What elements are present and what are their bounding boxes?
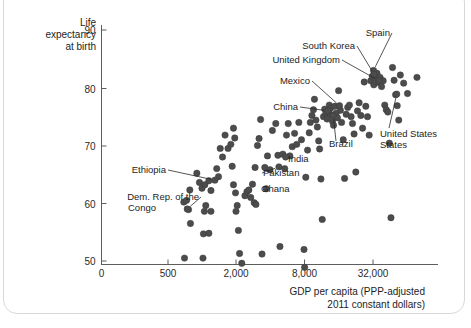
data-point: [217, 145, 223, 151]
data-point: [201, 208, 207, 214]
data-point: [400, 80, 406, 86]
leader-line: [357, 46, 372, 71]
annotation-label: India: [288, 153, 309, 164]
data-point: [273, 120, 279, 126]
y-axis-title-line2: expectancy: [45, 29, 96, 40]
data-point: [259, 251, 265, 257]
data-point: [254, 142, 260, 148]
data-point: [335, 87, 341, 93]
y-axis-title-line3: at birth: [65, 41, 96, 52]
data-point: [358, 112, 364, 118]
y-axis-title: Life expectancy at birth: [45, 17, 96, 52]
annotation-label: China: [273, 101, 299, 112]
data-point: [277, 243, 283, 249]
data-point: [396, 117, 402, 123]
data-point: [388, 214, 394, 220]
data-points-group: [181, 64, 421, 270]
data-point-labeled: [394, 91, 400, 97]
annotation-label: Dem. Rep. of the: [127, 191, 199, 202]
data-point: [359, 125, 365, 131]
data-point: [306, 130, 312, 136]
y-axis-ticks: 9080706050: [84, 25, 106, 267]
data-point: [246, 187, 252, 193]
data-point: [249, 181, 255, 187]
annotation-label: Brazil: [329, 138, 353, 149]
data-point: [414, 74, 420, 80]
data-point: [385, 109, 391, 115]
x-tick-label: 500: [160, 268, 177, 279]
data-point: [256, 135, 262, 141]
data-point: [234, 202, 240, 208]
annotation-label-line2: States: [380, 139, 407, 150]
data-point: [257, 116, 263, 122]
data-point: [239, 260, 245, 266]
data-point: [206, 230, 212, 236]
scatter-plot-figure: 9080706050 05002,0008,00032,000 Life exp…: [0, 0, 471, 328]
annotation-label: Mexico: [280, 75, 310, 86]
data-point: [214, 165, 220, 171]
data-point: [208, 187, 214, 193]
data-point: [318, 176, 324, 182]
data-point: [316, 146, 322, 152]
data-point: [361, 79, 367, 85]
data-point: [219, 154, 225, 160]
leader-line: [375, 33, 392, 67]
data-point: [404, 90, 410, 96]
y-axis-title-line1: Life: [80, 17, 97, 28]
annotation-label: Pakistan: [263, 167, 299, 178]
data-point: [366, 132, 372, 138]
data-point: [291, 130, 297, 136]
data-point: [348, 113, 354, 119]
data-point: [229, 163, 235, 169]
data-point-labeled: [325, 108, 331, 114]
data-point: [364, 113, 370, 119]
annotation-label: Ghana: [261, 183, 290, 194]
data-point: [228, 141, 234, 147]
y-tick-label: 60: [84, 199, 96, 210]
annotation-label: South Korea: [302, 40, 356, 51]
x-tick-label: 0: [99, 268, 105, 279]
data-point: [285, 120, 291, 126]
data-point: [232, 135, 238, 141]
data-point-labeled: [330, 112, 336, 118]
data-point: [301, 264, 307, 270]
x-tick-label: 32,000: [358, 268, 389, 279]
data-point: [353, 169, 359, 175]
data-point: [349, 120, 355, 126]
x-axis-title-line1: GDP per capita (PPP-adjusted: [290, 286, 425, 297]
data-point: [313, 117, 319, 123]
data-point: [351, 131, 357, 137]
data-point-labeled: [376, 78, 382, 84]
data-point: [269, 127, 275, 133]
data-point: [200, 255, 206, 261]
data-point: [235, 227, 241, 233]
data-point: [294, 141, 300, 147]
data-point-labeled: [184, 206, 190, 212]
y-tick-label: 80: [84, 84, 96, 95]
data-point: [389, 64, 395, 70]
data-point: [230, 182, 236, 188]
annotation-label: Spain: [366, 27, 390, 38]
data-point: [378, 83, 384, 89]
data-point: [330, 122, 336, 128]
leader-line: [168, 170, 211, 179]
data-point: [203, 202, 209, 208]
data-point: [316, 138, 322, 144]
annotation-label: United Kingdom: [272, 54, 340, 65]
y-tick-label: 70: [84, 141, 96, 152]
data-point: [222, 132, 228, 138]
data-point: [296, 119, 302, 125]
data-point: [391, 77, 397, 83]
data-point: [233, 208, 239, 214]
data-point: [338, 119, 344, 125]
data-point: [303, 174, 309, 180]
x-axis-title-line2: 2011 constant dollars): [327, 299, 425, 310]
x-tick-label: 2,000: [223, 268, 248, 279]
data-point: [301, 246, 307, 252]
data-point: [341, 175, 347, 181]
data-point: [363, 103, 369, 109]
data-point: [314, 124, 320, 130]
data-point: [298, 137, 304, 143]
data-point-labeled: [336, 102, 342, 108]
data-point-labeled: [212, 177, 218, 183]
